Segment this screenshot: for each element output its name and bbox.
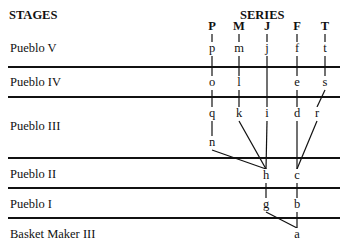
stage-label-bmiii: Basket Maker III xyxy=(10,227,95,241)
node-n: n xyxy=(209,135,216,149)
stage-label-pii: Pueblo II xyxy=(10,167,56,181)
node-t: t xyxy=(323,41,327,55)
link-r-c xyxy=(297,121,317,169)
node-c: c xyxy=(294,168,300,182)
link-n-h xyxy=(212,150,266,169)
series-header-J: J xyxy=(264,19,270,33)
seriation-diagram: STAGES SERIES Pueblo VPueblo IVPueblo II… xyxy=(0,0,346,243)
node-p: p xyxy=(209,41,215,55)
series-header-F: F xyxy=(293,19,301,33)
stage-dividers xyxy=(8,67,340,218)
series-title: SERIES xyxy=(240,8,285,22)
node-e: e xyxy=(294,75,300,89)
node-d: d xyxy=(294,106,301,120)
node-q: q xyxy=(209,106,216,120)
node-j: j xyxy=(264,41,268,55)
node-i: i xyxy=(265,106,269,120)
node-b: b xyxy=(294,197,300,211)
link-i-h xyxy=(266,121,267,169)
type-nodes: pmjftolesqkidrnhcgba xyxy=(207,41,330,241)
node-m: m xyxy=(234,41,244,55)
series-header-P: P xyxy=(208,19,216,33)
stage-label-piv: Pueblo IV xyxy=(10,75,61,89)
node-o: o xyxy=(209,75,215,89)
link-k-h xyxy=(239,121,266,169)
node-k: k xyxy=(236,106,243,120)
link-s-r xyxy=(317,90,325,107)
series-headers: PMJFT xyxy=(208,19,330,33)
stage-label-piii: Pueblo III xyxy=(10,119,60,133)
series-header-M: M xyxy=(233,19,245,33)
node-l: l xyxy=(237,75,241,89)
link-g-a xyxy=(266,212,297,228)
node-a: a xyxy=(294,227,300,241)
stage-label-pv: Pueblo V xyxy=(10,41,57,55)
node-h: h xyxy=(263,168,270,182)
stage-labels: Pueblo VPueblo IVPueblo IIIPueblo IIPueb… xyxy=(10,41,95,241)
node-s: s xyxy=(323,75,328,89)
series-header-T: T xyxy=(321,19,330,33)
node-g: g xyxy=(263,197,270,211)
stages-title: STAGES xyxy=(9,8,57,22)
stage-label-pi: Pueblo I xyxy=(10,197,52,211)
